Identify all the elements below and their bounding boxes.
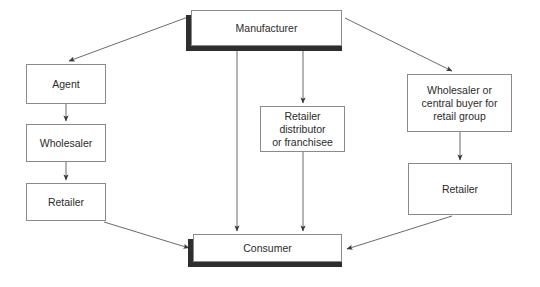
- node-retailer-right-label: Retailer: [439, 183, 481, 196]
- node-retailer-right[interactable]: Retailer: [408, 163, 512, 215]
- node-retailer-distributor-label: Retailer distributor or franchisee: [269, 110, 336, 149]
- node-retailer-left-label: Retailer: [45, 196, 87, 209]
- consumer-shadow-bottom: [188, 262, 342, 267]
- node-consumer[interactable]: Consumer: [193, 234, 342, 262]
- node-agent[interactable]: Agent: [26, 64, 106, 104]
- node-wholesaler[interactable]: Wholesaler: [26, 124, 106, 162]
- flowchart-canvas: Manufacturer Agent Wholesaler Retailer R…: [0, 0, 540, 287]
- edge-manufacturer-to-agent: [69, 17, 188, 61]
- node-agent-label: Agent: [49, 78, 82, 91]
- manufacturer-shadow-bottom: [186, 46, 342, 51]
- node-manufacturer[interactable]: Manufacturer: [191, 10, 342, 46]
- node-retailer-distributor[interactable]: Retailer distributor or franchisee: [260, 106, 345, 152]
- edge-retailer-right-to-consumer: [347, 216, 452, 249]
- edge-retailer-left-to-consumer: [104, 222, 189, 248]
- node-consumer-label: Consumer: [240, 242, 294, 255]
- node-wholesaler-central-buyer[interactable]: Wholesaler or central buyer for retail g…: [407, 74, 512, 132]
- node-wholesaler-label: Wholesaler: [37, 137, 96, 150]
- node-wholesaler-central-buyer-label: Wholesaler or central buyer for retail g…: [419, 84, 501, 123]
- edge-manufacturer-to-wholesaler-central-buyer: [345, 18, 452, 71]
- node-manufacturer-label: Manufacturer: [233, 22, 301, 35]
- node-retailer-left[interactable]: Retailer: [26, 183, 106, 221]
